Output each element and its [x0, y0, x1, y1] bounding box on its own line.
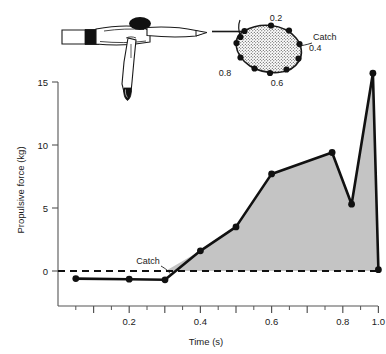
x-tick-label-0-8: 0.8	[336, 316, 349, 327]
y-tick-label-5: 5	[43, 203, 48, 214]
data-point	[348, 201, 355, 208]
inset-time-label-0-4: 0.4	[309, 43, 322, 53]
inset-time-label-0-2: 0.2	[270, 13, 283, 23]
inset-catch-label: Catch	[313, 32, 337, 42]
data-point	[197, 247, 204, 254]
propulsive-force-figure: 0.2 0.4 0.6 0.8 Catch 15 10 5 0	[0, 0, 386, 354]
y-axis-title: Propulsive force (kg)	[15, 146, 26, 233]
data-point	[233, 224, 240, 231]
data-point	[126, 276, 133, 283]
data-point	[370, 70, 377, 77]
y-tick-label-0: 0	[43, 266, 48, 277]
data-point	[72, 275, 79, 282]
data-point	[162, 276, 169, 283]
inset-time-label-0-6: 0.6	[271, 78, 284, 88]
y-tick-label-10: 10	[37, 140, 48, 151]
x-tick-label-0-2: 0.2	[123, 316, 136, 327]
figure-container: 0.2 0.4 0.6 0.8 Catch 15 10 5 0	[0, 0, 386, 354]
y-tick-label-15: 15	[37, 77, 48, 88]
catch-annotation-label: Catch	[136, 256, 160, 266]
x-tick-label-0-4: 0.4	[194, 316, 207, 327]
inset-time-label-0-8: 0.8	[219, 68, 232, 78]
data-point	[329, 149, 336, 156]
x-tick-label-1-0: 1.0	[372, 316, 385, 327]
x-axis-title: Time (s)	[189, 336, 223, 347]
data-point	[268, 171, 275, 178]
data-point	[375, 266, 382, 273]
x-tick-label-0-6: 0.6	[265, 316, 278, 327]
